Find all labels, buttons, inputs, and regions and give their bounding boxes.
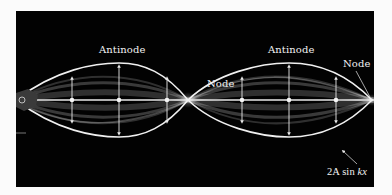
node-glow-center [180,92,196,108]
envelope-formula-label: 2A sin kx [327,166,367,177]
standing-wave-plot [16,11,374,187]
antinode-label-left: Antinode [99,44,145,55]
node-label-center: Node [207,78,235,89]
formula-prefix: 2A sin [327,166,357,177]
standing-wave-figure: Antinode Antinode Node Node 2A sin kx [16,11,374,187]
formula-variable: kx [357,166,367,177]
node-label-right: Node [343,58,371,69]
antinode-label-right: Antinode [268,44,314,55]
envelope-pointer-line [343,151,357,164]
